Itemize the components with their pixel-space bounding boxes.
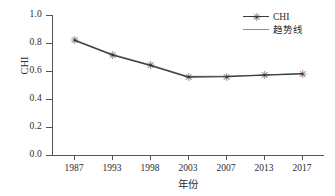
legend-label-trend: 趋势线 — [273, 22, 303, 36]
chart-figure: 1.00.80.60.40.20.0 198719931998200320072… — [0, 0, 335, 196]
trend-line-path — [74, 40, 302, 77]
legend-marker-glyph: ✳ — [252, 12, 261, 22]
chart-legend: ✳ CHI 趋势线 — [243, 11, 303, 35]
legend-item-trend: 趋势线 — [243, 23, 303, 35]
asterisk-marker-icon: ✳ — [243, 12, 269, 22]
line-swatch-icon — [243, 24, 269, 34]
legend-label-chi: CHI — [273, 12, 289, 22]
chi-line-path — [74, 40, 302, 77]
